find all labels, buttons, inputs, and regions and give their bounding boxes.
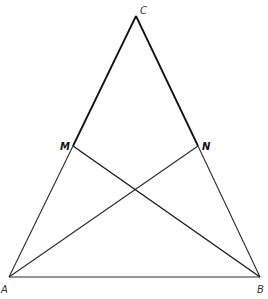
segment-am [9, 146, 73, 277]
segment-cn [136, 16, 198, 146]
triangle-diagram: C M N A B [0, 0, 268, 299]
label-a: A [0, 284, 8, 295]
segment-bm [73, 146, 260, 277]
label-c: C [140, 5, 147, 16]
label-n: N [202, 141, 211, 152]
label-m: M [60, 141, 70, 152]
segment-mc [73, 16, 136, 146]
segment-nb [198, 146, 260, 277]
segment-an [9, 146, 198, 277]
label-b: B [257, 284, 264, 295]
